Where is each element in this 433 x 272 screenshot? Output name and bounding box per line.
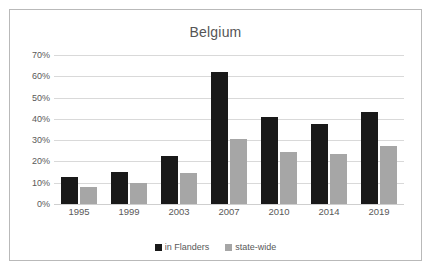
x-axis-tick-label: 1995: [68, 206, 89, 217]
gridline: [54, 204, 404, 205]
y-axis-tick-label: 50%: [16, 93, 50, 103]
chart-legend: in Flandersstate-wide: [10, 242, 421, 252]
bar-group: [54, 55, 104, 204]
bar: [280, 152, 297, 204]
bar-group: [104, 55, 154, 204]
chart-title: Belgium: [10, 24, 421, 40]
bar: [61, 177, 78, 204]
x-axis-tick-label: 2010: [268, 206, 289, 217]
bars-layer: [54, 55, 404, 204]
chart-frame: Belgium 0%10%20%30%40%50%60%70% 19951999…: [9, 9, 422, 261]
y-axis-tick-label: 10%: [16, 178, 50, 188]
bar: [361, 112, 378, 204]
legend-swatch-icon: [155, 244, 162, 251]
legend-entry[interactable]: in Flanders: [155, 242, 210, 252]
bar-group: [154, 55, 204, 204]
bar: [261, 117, 278, 204]
x-axis-tick-label: 2019: [368, 206, 389, 217]
plot-area: [54, 55, 404, 204]
bar-group: [204, 55, 254, 204]
y-axis-tick-label: 70%: [16, 50, 50, 60]
x-axis-tick-labels: 1995199920032007201020142019: [54, 206, 404, 224]
y-axis-tick-labels: 0%10%20%30%40%50%60%70%: [14, 55, 50, 204]
y-axis-tick-label: 30%: [16, 135, 50, 145]
y-axis-tick-label: 20%: [16, 156, 50, 166]
y-axis-tick-label: 40%: [16, 114, 50, 124]
y-axis-tick-label: 60%: [16, 71, 50, 81]
bar: [311, 124, 328, 204]
legend-label: in Flanders: [165, 242, 210, 252]
bar: [161, 156, 178, 204]
bar: [330, 154, 347, 204]
bar: [111, 172, 128, 204]
x-axis-tick-label: 2007: [218, 206, 239, 217]
x-axis-tick-label: 2003: [168, 206, 189, 217]
x-axis-tick-label: 1999: [118, 206, 139, 217]
bar: [180, 173, 197, 205]
legend-label: state-wide: [235, 242, 276, 252]
bar: [230, 139, 247, 204]
bar: [211, 72, 228, 204]
bar-group: [354, 55, 404, 204]
bar-group: [254, 55, 304, 204]
bar: [380, 146, 397, 204]
bar: [80, 187, 97, 204]
y-axis-tick-label: 0%: [16, 199, 50, 209]
bar-group: [304, 55, 354, 204]
legend-entry[interactable]: state-wide: [225, 242, 276, 252]
bar: [130, 183, 147, 204]
legend-swatch-icon: [225, 244, 232, 251]
x-axis-tick-label: 2014: [318, 206, 339, 217]
